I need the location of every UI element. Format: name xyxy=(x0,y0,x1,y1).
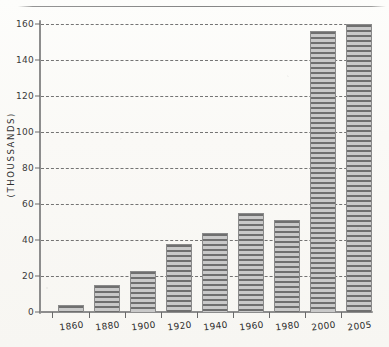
bar xyxy=(58,305,84,312)
x-tick-mark xyxy=(52,312,53,318)
bar xyxy=(274,220,300,312)
bar xyxy=(166,244,192,312)
bar xyxy=(130,271,156,312)
plot-area xyxy=(40,18,372,312)
bar xyxy=(202,233,228,312)
y-tick-label: 140 xyxy=(0,55,34,65)
bar xyxy=(238,213,264,312)
y-tick-label: 100 xyxy=(0,127,34,137)
bar xyxy=(346,24,372,312)
y-axis-label: (THOUSSANDS) xyxy=(6,112,22,197)
x-tick-mark xyxy=(233,312,234,318)
bar-chart: (THOUSSANDS) 020406080100120140160 18601… xyxy=(0,0,389,347)
x-tick-mark xyxy=(305,312,306,318)
y-tick-label: 80 xyxy=(0,163,34,173)
x-tick-mark xyxy=(341,312,342,318)
bar xyxy=(310,31,336,312)
y-tick-label: 40 xyxy=(0,235,34,245)
x-tick-mark xyxy=(269,312,270,318)
y-tick-label: 0 xyxy=(0,307,34,317)
bar xyxy=(94,285,120,312)
y-tick-label: 20 xyxy=(0,271,34,281)
x-tick-mark xyxy=(125,312,126,318)
x-tick-mark xyxy=(197,312,198,318)
y-tick-label: 120 xyxy=(0,91,34,101)
y-tick-label: 60 xyxy=(0,199,34,209)
x-tick-mark xyxy=(161,312,162,318)
x-tick-mark xyxy=(89,312,90,318)
y-tick-label: 160 xyxy=(0,19,34,29)
